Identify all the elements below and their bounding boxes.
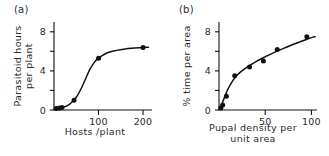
data-point [224, 94, 229, 99]
panel-a: (a) Parasitoid hours per plant Hosts /pl… [0, 0, 164, 156]
data-point [275, 47, 280, 52]
panel-a-y-ticks [50, 32, 54, 110]
panel-b-ytick-8: 8 [205, 26, 211, 37]
panel-b-y-ticks [215, 32, 219, 110]
panel-b-ytick-4: 4 [205, 65, 211, 76]
data-point [220, 103, 225, 108]
data-point [304, 34, 309, 39]
data-point [232, 73, 237, 78]
data-point [60, 105, 65, 110]
panel-b-axis-lines [219, 22, 317, 110]
data-point [72, 98, 77, 103]
panel-a-ytick-8: 8 [40, 26, 46, 37]
panel-a-x-ticks [99, 110, 144, 115]
panel-b-ytick-0: 0 [205, 105, 211, 116]
panel-a-fit-curve [55, 47, 149, 109]
panel-b-plot: 0 4 8 50 100 [165, 0, 329, 156]
panel-b: (b) % time per area Pupal density per un… [165, 0, 329, 156]
panel-b-xtick-100: 100 [302, 116, 321, 127]
panel-a-axis-lines [54, 22, 152, 110]
panel-a-ytick-4: 4 [40, 65, 46, 76]
panel-b-xtick-50: 50 [259, 116, 272, 127]
panel-a-plot: 0 4 8 100 200 [0, 0, 164, 156]
panel-b-data-points [218, 34, 309, 110]
panel-a-xtick-200: 200 [134, 116, 153, 127]
figure-container: (a) Parasitoid hours per plant Hosts /pl… [0, 0, 329, 156]
panel-a-data-points [54, 45, 146, 111]
panel-a-xtick-100: 100 [89, 116, 108, 127]
panel-b-fit-curve [220, 37, 315, 109]
data-point [247, 64, 252, 69]
panel-b-x-ticks [265, 110, 311, 115]
data-point [141, 45, 146, 50]
data-point [96, 56, 101, 61]
panel-a-ytick-0: 0 [40, 105, 46, 116]
data-point [261, 59, 266, 64]
